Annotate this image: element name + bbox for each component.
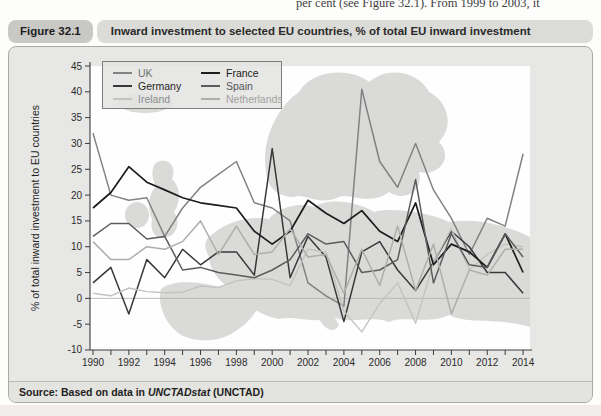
- y-tick-label: 10: [71, 241, 83, 252]
- legend-item-netherlands: Netherlands: [201, 92, 283, 105]
- uk-line-swatch: [113, 72, 132, 74]
- source-italic: UNCTADstat: [148, 386, 210, 398]
- y-tick-label: 45: [71, 61, 83, 72]
- figure-panel: Figure 32.1 Inward investment to selecte…: [8, 20, 593, 403]
- line-chart: 454035302520151050-5-1019901992199419961…: [9, 47, 592, 381]
- chart-box: 454035302520151050-5-1019901992199419961…: [8, 46, 593, 403]
- source-strip: Source: Based on data in UNCTADstat (UNC…: [9, 381, 592, 402]
- legend-item-spain: Spain: [201, 79, 283, 92]
- ireland-line-swatch: [113, 98, 132, 100]
- y-tick-label: 30: [71, 138, 83, 149]
- y-tick-label: -5: [73, 319, 82, 330]
- x-tick-label: 2010: [440, 357, 463, 368]
- source-text: Source: Based on data in UNCTADstat (UNC…: [19, 386, 264, 398]
- legend-label-uk: UK: [138, 67, 153, 79]
- netherlands-line-swatch: [201, 98, 220, 100]
- legend-item-ireland: Ireland: [113, 92, 201, 105]
- legend-label-france: France: [226, 67, 259, 79]
- legend-item-france: France: [201, 66, 283, 79]
- y-tick-label: 20: [71, 190, 83, 201]
- chart-area: 454035302520151050-5-1019901992199419961…: [9, 47, 592, 381]
- x-tick-label: 1990: [82, 357, 105, 368]
- legend-item-uk: UK: [113, 66, 201, 79]
- x-tick-label: 1996: [189, 357, 212, 368]
- france-line-swatch: [201, 72, 220, 74]
- spain-line-swatch: [201, 85, 220, 87]
- y-tick-label: 25: [71, 164, 83, 175]
- x-tick-label: 2008: [404, 357, 427, 368]
- x-tick-label: 1994: [154, 357, 177, 368]
- germany-line-swatch: [113, 85, 132, 87]
- y-tick-label: 35: [71, 112, 83, 123]
- legend-label-ireland: Ireland: [138, 93, 170, 105]
- figure-title: Inward investment to selected EU countri…: [97, 20, 593, 43]
- legend-item-germany: Germany: [113, 79, 201, 92]
- x-tick-label: 1998: [225, 357, 248, 368]
- y-tick-label: 0: [76, 293, 82, 304]
- figure-number-label: Figure 32.1: [8, 20, 93, 43]
- x-tick-label: 2006: [369, 357, 392, 368]
- y-axis-title: % of total inward investment to EU count…: [29, 105, 41, 311]
- x-tick-label: 2012: [476, 357, 499, 368]
- figure-header: Figure 32.1 Inward investment to selecte…: [8, 20, 593, 43]
- y-tick-label: 5: [76, 267, 82, 278]
- y-tick-label: -10: [68, 344, 83, 355]
- y-tick-label: 15: [71, 215, 83, 226]
- x-tick-label: 2002: [297, 357, 320, 368]
- legend-label-spain: Spain: [226, 80, 253, 92]
- x-tick-label: 1992: [118, 357, 141, 368]
- chart-legend: UK Germany Ireland France: [102, 61, 282, 109]
- y-tick-label: 40: [71, 86, 83, 97]
- x-tick-label: 2004: [333, 357, 356, 368]
- cropped-body-text: per cent (see Figure 32.1). From 1999 to…: [296, 0, 540, 11]
- legend-label-netherlands: Netherlands: [226, 93, 283, 105]
- x-tick-label: 2000: [261, 357, 284, 368]
- x-tick-label: 2014: [512, 357, 535, 368]
- legend-label-germany: Germany: [138, 80, 181, 92]
- page-bottom-margin: [0, 405, 601, 416]
